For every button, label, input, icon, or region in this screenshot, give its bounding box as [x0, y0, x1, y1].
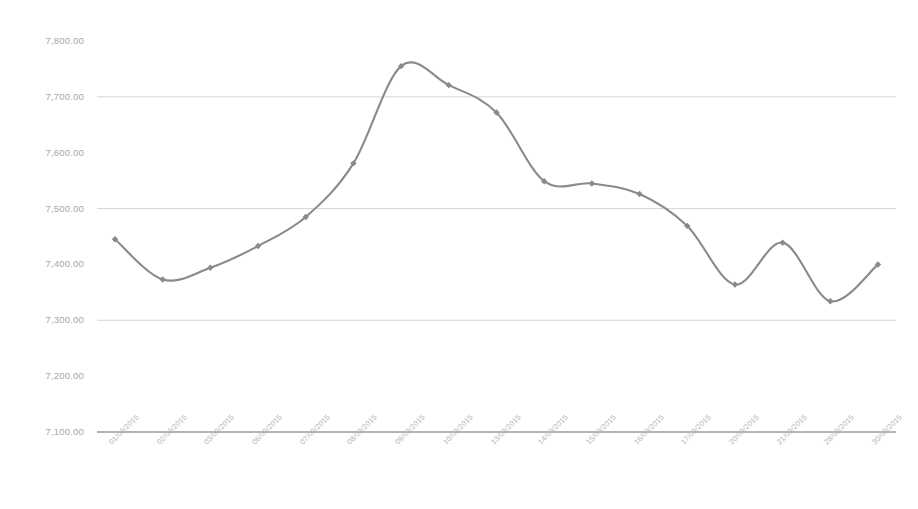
data-point-marker — [589, 180, 595, 186]
y-tick-label: 7,600.00 — [22, 147, 84, 158]
data-point-marker — [827, 298, 833, 304]
y-tick-label: 7,300.00 — [22, 314, 84, 325]
y-tick-label: 7,800.00 — [22, 35, 84, 46]
series-markers — [112, 63, 881, 305]
line-chart: 7,800.007,700.007,600.007,500.007,400.00… — [0, 0, 918, 509]
y-tick-label: 7,200.00 — [22, 370, 84, 381]
data-point-marker — [207, 265, 213, 271]
series-line — [115, 62, 878, 301]
data-point-marker — [636, 191, 642, 197]
y-tick-label: 7,500.00 — [22, 203, 84, 214]
data-point-marker — [732, 281, 738, 287]
data-point-marker — [779, 239, 785, 245]
y-tick-label: 7,400.00 — [22, 258, 84, 269]
y-tick-label: 7,100.00 — [22, 426, 84, 437]
series-line-path — [115, 62, 878, 301]
data-point-marker — [159, 276, 165, 282]
y-tick-label: 7,700.00 — [22, 91, 84, 102]
